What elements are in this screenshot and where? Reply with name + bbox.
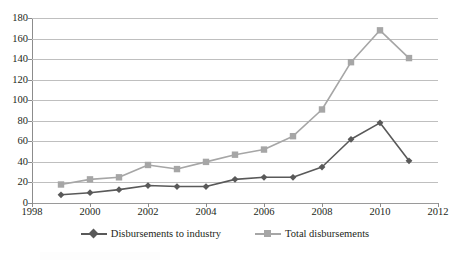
y-axis-tick-label: 120 [2, 74, 28, 85]
data-point-square [58, 181, 64, 187]
data-point-diamond [203, 183, 210, 190]
x-axis-labels: 19982000200220042006200820102012 [32, 206, 438, 220]
data-point-square [377, 27, 383, 33]
x-axis-tick-label: 2000 [70, 206, 110, 218]
scan-artifact [40, 252, 160, 260]
data-point-diamond [58, 191, 65, 198]
y-axis-tick-label: 180 [2, 13, 28, 24]
data-point-square [232, 151, 238, 157]
data-point-diamond [261, 174, 268, 181]
series-line [61, 30, 409, 184]
data-point-diamond [87, 189, 94, 196]
x-axis-tick-label: 2006 [244, 206, 284, 218]
y-axis-tick-label: 160 [2, 33, 28, 44]
legend-item-total-disbursements: Total disbursements [255, 228, 369, 240]
legend-item-disbursements-to-industry: Disbursements to industry [81, 228, 221, 240]
data-point-square [290, 133, 296, 139]
data-point-square [348, 59, 354, 65]
legend-label: Total disbursements [285, 228, 369, 240]
x-axis-tick-label: 2012 [418, 206, 450, 218]
line-chart: 020406080100120140160180 199820002002200… [0, 0, 450, 264]
y-axis-tick-label: 100 [2, 95, 28, 106]
y-axis-tick-label: 60 [2, 136, 28, 147]
data-point-square [406, 55, 412, 61]
y-axis-tick-label: 140 [2, 54, 28, 65]
y-axis-tick-label: 40 [2, 157, 28, 168]
series-layer [32, 18, 438, 203]
data-point-diamond [232, 176, 239, 183]
legend-key-square-icon [255, 229, 281, 239]
legend-key-diamond-icon [81, 229, 107, 239]
data-point-square [87, 176, 93, 182]
data-point-diamond [116, 186, 123, 193]
data-point-square [174, 166, 180, 172]
x-axis-tick-label: 2008 [302, 206, 342, 218]
data-point-diamond [290, 174, 297, 181]
data-point-diamond [174, 183, 181, 190]
y-axis-tick-label: 80 [2, 116, 28, 127]
legend-label: Disbursements to industry [111, 228, 221, 240]
data-point-square [116, 174, 122, 180]
data-point-diamond [145, 182, 152, 189]
data-point-square [203, 159, 209, 165]
gridline [32, 203, 438, 204]
x-axis-tick-label: 2004 [186, 206, 226, 218]
x-axis-tick-label: 2010 [360, 206, 400, 218]
x-axis-tick-label: 2002 [128, 206, 168, 218]
data-point-square [145, 162, 151, 168]
data-point-square [261, 146, 267, 152]
x-axis-tick-label: 1998 [12, 206, 52, 218]
data-point-square [319, 106, 325, 112]
y-axis-tick-label: 20 [2, 177, 28, 188]
chart-legend: Disbursements to industry Total disburse… [0, 228, 450, 240]
y-axis-labels: 020406080100120140160180 [0, 18, 28, 203]
series-line [61, 123, 409, 195]
